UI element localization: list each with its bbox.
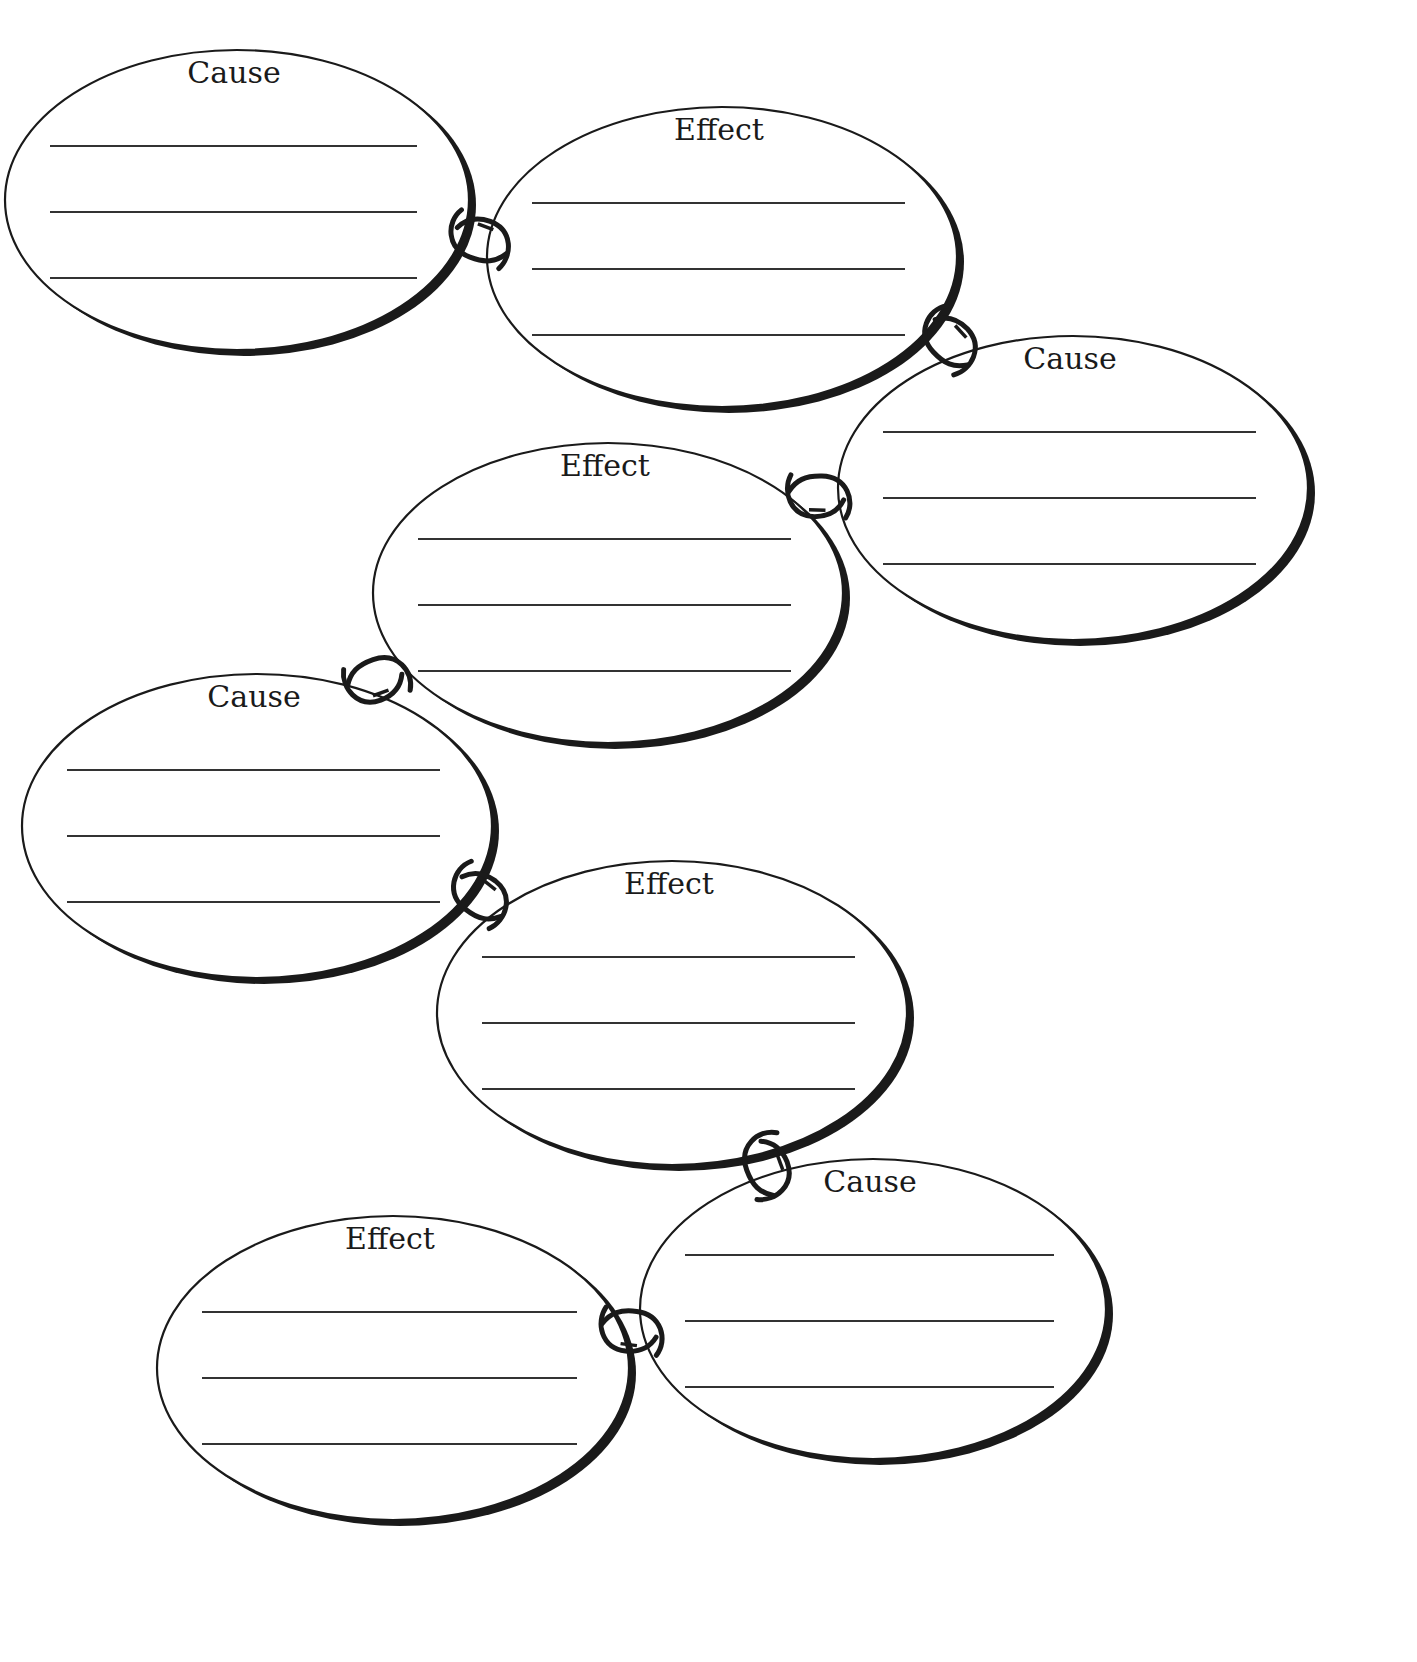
diagram-nodes: CauseEffectCauseEffectCauseEffectCauseEf… [5, 50, 1315, 1526]
bubble-outline [487, 107, 957, 407]
cause-label: Cause [1023, 341, 1116, 376]
bubble-outline [22, 674, 492, 978]
bubble-outline [157, 1216, 629, 1520]
effect-bubble: Effect [157, 1216, 636, 1526]
effect-label: Effect [345, 1221, 435, 1256]
effect-bubble: Effect [373, 443, 850, 749]
bubble-outline [838, 336, 1308, 640]
bubble-outline [373, 443, 843, 743]
cause-label: Cause [187, 55, 280, 90]
effect-bubble: Effect [487, 107, 964, 413]
cause-label: Cause [823, 1164, 916, 1199]
cause-bubble: Cause [640, 1159, 1113, 1465]
cause-bubble: Cause [22, 674, 499, 984]
effect-label: Effect [560, 448, 650, 483]
effect-label: Effect [624, 866, 714, 901]
bubble-outline [5, 50, 469, 350]
cause-bubble: Cause [5, 50, 476, 356]
cause-effect-diagram: CauseEffectCauseEffectCauseEffectCauseEf… [0, 0, 1417, 1662]
cause-label: Cause [207, 679, 300, 714]
effect-bubble: Effect [437, 861, 914, 1171]
bubble-outline [640, 1159, 1106, 1459]
effect-label: Effect [674, 112, 764, 147]
cause-bubble: Cause [838, 336, 1315, 646]
